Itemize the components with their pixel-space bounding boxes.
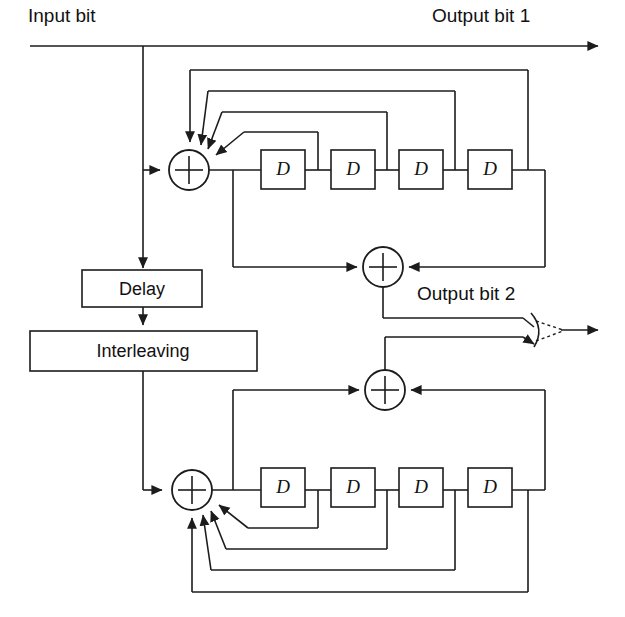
interleaving-to-lower-adder-wire (143, 371, 162, 490)
upper-feedback-returns (190, 70, 528, 132)
lower-delay-element-1: D (261, 468, 305, 507)
interleaving-block-label: Interleaving (96, 341, 189, 361)
input-bit-label: Input bit (28, 5, 96, 26)
output-bit-1-label: Output bit 1 (432, 5, 530, 26)
delay-element-label: D (413, 158, 428, 179)
interleaving-block: Interleaving (30, 331, 257, 371)
encoder-schematic: Input bit Output bit 1 Output bit 2 (0, 0, 625, 617)
lower-delay-element-2: D (331, 468, 375, 507)
upper-delay-element-4: D (468, 150, 512, 189)
lower-delay-element-3: D (399, 468, 443, 507)
upper-encoder-adder (169, 150, 209, 190)
delay-block: Delay (82, 270, 202, 307)
output-bit-2-label: Output bit 2 (417, 283, 515, 304)
upper-parity-adder (363, 247, 403, 287)
delay-element-label: D (482, 158, 497, 179)
switch-contact-lower (536, 331, 563, 341)
delay-element-label: D (345, 476, 360, 497)
upper-delay-element-2: D (331, 150, 375, 189)
delay-element-label: D (345, 158, 360, 179)
lower-delay-element-4: D (468, 468, 512, 507)
switch-contact-upper (536, 321, 563, 330)
delay-element-label: D (275, 158, 290, 179)
lower-parity-adder (365, 370, 405, 410)
lower-encoder-adder (172, 470, 212, 510)
turbo-encoder-diagram: Input bit Output bit 1 Output bit 2 (0, 0, 625, 617)
delay-element-label: D (275, 476, 290, 497)
upper-delay-element-1: D (261, 150, 305, 189)
delay-block-label: Delay (119, 279, 165, 299)
parity2-to-switch-wire (385, 337, 534, 370)
upper-delay-element-3: D (399, 150, 443, 189)
lower-feedback-returns (192, 528, 528, 592)
output-switch[interactable] (531, 313, 598, 347)
delay-element-label: D (413, 476, 428, 497)
delay-element-label: D (482, 476, 497, 497)
